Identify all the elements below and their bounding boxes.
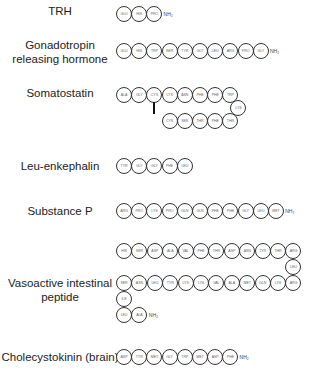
residue: MET [146, 349, 162, 365]
residue: THR [208, 243, 224, 259]
residue: ALA [131, 307, 147, 323]
residue: TYR [116, 158, 132, 174]
residue: SER [131, 243, 147, 259]
residue: GLY [146, 158, 162, 174]
residue: MET [268, 203, 284, 219]
residue: GLN [177, 203, 193, 219]
residue: HIS [131, 43, 147, 59]
residue: ARG [222, 43, 238, 59]
disulfide-bond [153, 102, 155, 114]
label-trh: TRH [20, 4, 100, 18]
residue: GLY [131, 158, 147, 174]
residue: PRO [162, 203, 178, 219]
residue: LEU [147, 275, 163, 291]
residue: ASP [147, 243, 163, 259]
residue: PHE [162, 158, 178, 174]
residue: ALA [116, 87, 132, 103]
amide-terminal: NH₂ [240, 354, 249, 360]
residue: GLY [131, 87, 147, 103]
residue: PHE [222, 203, 238, 219]
residue: PHE [207, 203, 223, 219]
residue: TYR [131, 349, 147, 365]
residue: LYS [270, 275, 286, 291]
label-vip: Vasoactive intestinal peptide [0, 276, 120, 304]
residue: PRO [146, 6, 162, 22]
residue: ASN [131, 275, 147, 291]
label-somatostatin: Somatostatin [10, 86, 110, 100]
residue: PHE [207, 87, 223, 103]
residue: SER [116, 275, 132, 291]
residue: PRO [238, 43, 254, 59]
residue: VAL [178, 243, 194, 259]
label-vip-line1: Vasoactive intestinal [0, 276, 120, 290]
residue: LEU [285, 259, 301, 275]
residue: ASP [207, 349, 223, 365]
residue: ARG [285, 243, 301, 259]
residue: TRP [177, 349, 193, 365]
residue: MET [192, 349, 208, 365]
amide-terminal: NH₂ [270, 48, 279, 54]
residue: TYR [162, 275, 178, 291]
residue: CYS [162, 113, 178, 129]
residue: PRO [131, 203, 147, 219]
residue: ARG [116, 203, 132, 219]
residue: LEU [177, 158, 193, 174]
label-substance-p: Substance P [10, 204, 110, 218]
residue: THR [222, 113, 238, 129]
residue: GLU [116, 43, 132, 59]
residue: LYS [146, 203, 162, 219]
residue: ALA [162, 243, 178, 259]
residue: VAL [208, 275, 224, 291]
residue: MET [239, 275, 255, 291]
residue: GLN [255, 275, 271, 291]
residue: PHE [222, 349, 238, 365]
residue: TYR [177, 43, 193, 59]
residue: SER [177, 113, 193, 129]
residue: LYS [193, 275, 209, 291]
residue: HIS [116, 243, 132, 259]
label-vip-line2: peptide [0, 290, 120, 304]
residue: GLU [116, 6, 132, 22]
residue: GLY [253, 43, 269, 59]
residue: THR [270, 243, 286, 259]
residue: LYS [178, 275, 194, 291]
residue: ASN [177, 87, 193, 103]
residue: SER [162, 43, 178, 59]
residue: ALA [224, 275, 240, 291]
amide-terminal: NH₂ [149, 312, 158, 318]
residue: PHE [207, 113, 223, 129]
residue: LYS [162, 87, 178, 103]
label-gnrh-line2: releasing hormone [0, 52, 120, 66]
residue: TYR [255, 243, 271, 259]
residue: ILE [116, 291, 132, 307]
residue: LEU [207, 43, 223, 59]
label-cholecystokinin: Cholecystokinin (brain) [0, 350, 120, 364]
residue: ASP [224, 243, 240, 259]
residue: PHE [192, 87, 208, 103]
residue: LEU [253, 203, 269, 219]
residue: HIS [131, 6, 147, 22]
residue: GLY [192, 43, 208, 59]
residue: PHE [193, 243, 209, 259]
residue: GLY [238, 203, 254, 219]
residue: ASN [239, 243, 255, 259]
residue: GLY [162, 349, 178, 365]
residue: GLN [192, 203, 208, 219]
residue: CYS [146, 87, 162, 103]
residue: THR [192, 113, 208, 129]
residue: LEU [116, 307, 132, 323]
residue: ARG [285, 275, 301, 291]
label-gnrh-line1: Gonadotropin [0, 38, 120, 52]
residue: TRP [146, 43, 162, 59]
amide-terminal: NH₂ [164, 11, 173, 17]
label-gnrh: Gonadotropin releasing hormone [0, 38, 120, 66]
label-leu-enkephalin: Leu-enkephalin [10, 159, 110, 173]
residue: ASP [116, 349, 132, 365]
amide-terminal: NH₂ [285, 208, 294, 214]
